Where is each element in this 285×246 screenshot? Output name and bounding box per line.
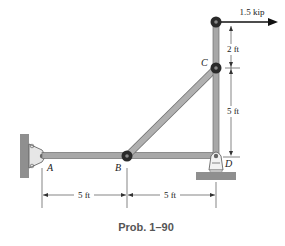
wall-support	[20, 134, 29, 178]
label-a: A	[46, 162, 54, 173]
frame-diagram: 1.5 kip 2 ft 5 ft 5 ft 5 ft A B C D Prob…	[0, 0, 285, 246]
pin-c	[211, 63, 222, 74]
dim-2ft: 2 ft	[227, 44, 240, 54]
figure-caption: Prob. 1–90	[118, 221, 174, 233]
pin-top	[211, 17, 222, 28]
load-label: 1.5 kip	[239, 7, 265, 17]
label-b: B	[115, 162, 121, 173]
member-vertical	[213, 22, 219, 156]
horizontal-dimension	[42, 168, 216, 208]
dim-5ft-ab: 5 ft	[78, 190, 91, 200]
ground-d	[196, 172, 236, 180]
label-c: C	[201, 57, 208, 68]
dim-5ft-vertical: 5 ft	[227, 106, 240, 116]
load-arrow	[221, 18, 278, 26]
label-d: D	[224, 158, 233, 169]
dim-5ft-bd: 5 ft	[164, 190, 177, 200]
pin-b	[122, 151, 133, 162]
